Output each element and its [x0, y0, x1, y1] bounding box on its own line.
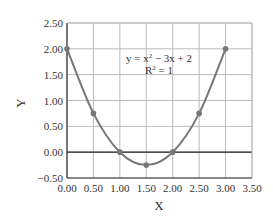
x-tick-label: 2.50	[190, 182, 210, 194]
trendline-equation: y = x2 − 3x + 2	[126, 52, 192, 64]
x-tick-label: 0.50	[84, 182, 104, 194]
x-axis-title: X	[154, 198, 164, 213]
x-tick-label: 1.50	[137, 182, 157, 194]
y-tick-label: −0.50	[38, 172, 64, 184]
y-tick-labels: 2.502.001.501.000.500.00−0.50	[38, 17, 64, 184]
grid	[67, 23, 252, 178]
data-point	[223, 46, 229, 52]
data-point	[91, 111, 97, 117]
data-point	[196, 111, 202, 117]
y-tick-label: 2.50	[44, 17, 64, 29]
x-tick-labels: 0.000.501.001.502.002.503.003.50	[57, 182, 262, 194]
r-squared-label: R2 = 1	[145, 64, 173, 76]
data-point	[143, 162, 149, 168]
y-tick-label: 0.50	[44, 120, 64, 132]
y-tick-label: 0.00	[44, 146, 64, 158]
data-point	[170, 149, 176, 155]
y-tick-label: 1.00	[44, 95, 64, 107]
y-tick-label: 1.50	[44, 69, 64, 81]
x-tick-label: 2.00	[163, 182, 183, 194]
y-tick-label: 2.00	[44, 43, 64, 55]
chart: 0.000.501.001.502.002.503.003.50 2.502.0…	[0, 0, 273, 222]
x-tick-label: 1.00	[110, 182, 130, 194]
x-tick-label: 3.00	[216, 182, 236, 194]
x-tick-label: 3.50	[242, 182, 262, 194]
y-axis-title: Y	[13, 98, 28, 108]
data-point	[64, 46, 70, 52]
data-point	[117, 149, 123, 155]
